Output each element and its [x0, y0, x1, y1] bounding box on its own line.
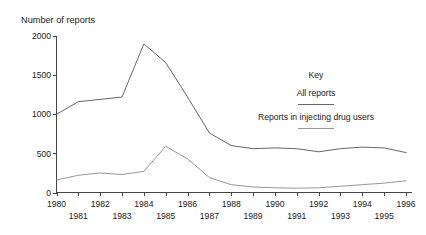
y-axis-tick-label: 1000 — [32, 109, 51, 119]
line-chart: Number of reports 0500100015002000 19801… — [0, 0, 426, 235]
x-axis-tick-label: 1987 — [200, 211, 219, 221]
x-axis-tick-label: 1983 — [112, 211, 131, 221]
x-axis-tick-labels: 1980198119821983198419851986198719881989… — [47, 199, 416, 221]
x-axis-tick-label: 1982 — [91, 199, 110, 209]
x-axis-tick-label: 1981 — [69, 211, 88, 221]
legend-entry-all-reports-label: All reports — [297, 88, 336, 98]
y-axis-tick-marks — [53, 37, 57, 194]
x-axis-tick-label: 1996 — [396, 199, 415, 209]
x-axis-tick-label: 1988 — [222, 199, 241, 209]
x-axis-tick-label: 1993 — [331, 211, 350, 221]
legend-entry-injecting-drug-users-label: Reports in injecting drug users — [258, 112, 374, 122]
x-axis-tick-label: 1984 — [134, 199, 153, 209]
legend: Key All reports Reports in injecting dru… — [258, 70, 374, 129]
legend-title: Key — [309, 70, 325, 80]
chart-container: Number of reports 0500100015002000 19801… — [0, 0, 426, 235]
series-line-injecting-drug-users — [57, 146, 407, 188]
y-axis-tick-label: 1500 — [32, 70, 51, 80]
x-axis-tick-label: 1995 — [375, 211, 394, 221]
x-axis-tick-label: 1980 — [47, 199, 66, 209]
y-axis-tick-label: 2000 — [32, 31, 51, 41]
y-axis-title: Number of reports — [21, 15, 95, 25]
x-axis-tick-label: 1985 — [156, 211, 175, 221]
y-axis-tick-label: 500 — [37, 149, 52, 159]
x-axis-tick-label: 1992 — [309, 199, 328, 209]
x-axis-tick-label: 1989 — [244, 211, 263, 221]
x-axis-tick-label: 1991 — [287, 211, 306, 221]
x-axis-tick-label: 1994 — [353, 199, 372, 209]
y-axis-tick-label: 0 — [46, 188, 51, 198]
x-axis-tick-label: 1986 — [178, 199, 197, 209]
x-axis-tick-label: 1990 — [265, 199, 284, 209]
x-axis-tick-marks — [58, 193, 407, 197]
y-axis-tick-labels: 0500100015002000 — [32, 31, 51, 198]
series-line-all-reports — [57, 44, 407, 153]
